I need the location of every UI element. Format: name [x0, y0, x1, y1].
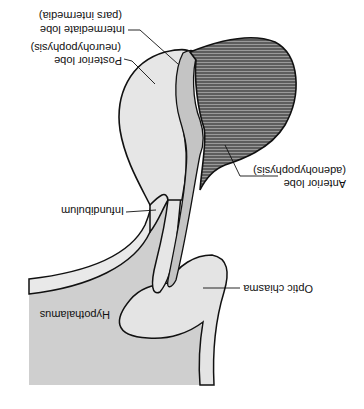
- label-anterior-lobe-sub: (adenohypophysis): [253, 165, 346, 177]
- label-intermediate-lobe: Intermediate lobe: [40, 24, 125, 36]
- label-hypothalamus: Hypothalamus: [39, 309, 110, 321]
- label-intermediate-lobe-sub: (pars intermedia): [39, 10, 122, 22]
- label-optic-chiasma: Optic chiasma: [242, 283, 313, 295]
- label-posterior-lobe: Posterior lobe: [54, 55, 122, 67]
- pituitary-diagram: Intermediate lobe (pars intermedia) Post…: [0, 0, 364, 409]
- label-posterior-lobe-sub: (neurohypophysis): [31, 42, 122, 54]
- label-infundibulum: Infundibulum: [61, 205, 124, 217]
- label-anterior-lobe: Anterior lobe: [284, 178, 346, 190]
